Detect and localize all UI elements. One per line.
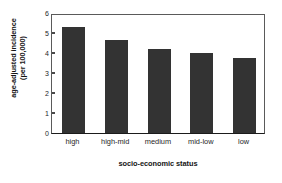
bar (105, 40, 128, 133)
y-axis-tick-label: 1 (45, 109, 52, 116)
bar (62, 27, 85, 133)
bar-series (52, 15, 264, 133)
y-axis-tick-label: 5 (45, 29, 52, 36)
bar-chart-figure: age-adjusted incidence (per 100,000) 012… (0, 0, 282, 183)
y-axis-tick-label: 4 (45, 49, 52, 56)
y-axis-tick-label: 0 (45, 129, 52, 136)
plot-area: 0123456 (51, 14, 265, 134)
x-axis-tick-label: low (216, 137, 272, 146)
y-axis-tick-label: 2 (45, 89, 52, 96)
y-axis-tick-label: 3 (45, 69, 52, 76)
x-axis-title: socio-economic status (51, 159, 265, 168)
bar (148, 49, 171, 133)
bar (190, 53, 213, 133)
bar (233, 58, 256, 133)
y-axis-title: age-adjusted incidence (per 100,000) (4, 1, 34, 116)
x-axis-tick-labels: highhigh-midmediummid-lowlow (51, 137, 265, 151)
y-axis-title-line-2: (per 100,000) (19, 36, 28, 80)
y-axis-tick-label: 6 (45, 9, 52, 16)
